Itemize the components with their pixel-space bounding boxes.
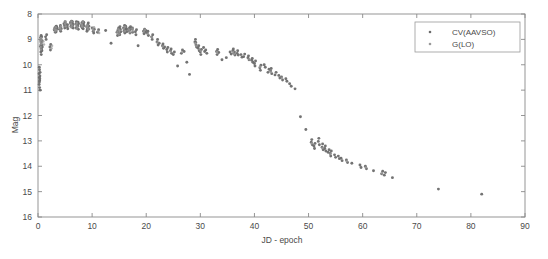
data-point xyxy=(310,142,313,145)
data-point xyxy=(124,25,127,28)
data-point xyxy=(39,71,42,74)
data-point xyxy=(38,81,41,84)
data-point xyxy=(161,45,164,48)
data-point xyxy=(151,33,154,36)
data-point xyxy=(216,51,219,54)
data-point xyxy=(144,28,147,31)
data-point xyxy=(123,30,126,33)
data-point xyxy=(480,193,483,196)
data-point xyxy=(110,42,113,45)
data-point xyxy=(290,85,293,88)
data-point xyxy=(194,42,197,45)
data-point xyxy=(129,31,132,34)
data-point xyxy=(333,153,336,156)
data-point xyxy=(38,74,41,77)
data-point xyxy=(197,44,200,47)
data-point xyxy=(233,53,236,56)
data-point xyxy=(170,50,173,53)
data-point xyxy=(360,166,363,169)
data-point xyxy=(93,26,96,29)
data-point xyxy=(38,66,41,69)
data-point xyxy=(59,28,62,31)
data-point xyxy=(321,147,324,150)
x-tick-label: 10 xyxy=(87,221,97,231)
data-point xyxy=(304,128,307,131)
data-point xyxy=(277,74,280,77)
data-point xyxy=(64,20,67,23)
data-point xyxy=(166,51,169,54)
data-point xyxy=(270,71,273,74)
data-point xyxy=(263,63,266,66)
data-point xyxy=(364,166,367,169)
data-point xyxy=(274,73,277,76)
data-point xyxy=(92,32,95,35)
x-tick-label: 60 xyxy=(358,221,368,231)
data-point xyxy=(199,50,202,53)
data-point xyxy=(247,54,250,57)
data-point xyxy=(254,59,257,62)
data-point xyxy=(221,58,224,61)
x-tick-label: 30 xyxy=(196,221,206,231)
data-point xyxy=(259,69,262,72)
data-point xyxy=(225,56,228,59)
data-point xyxy=(132,30,135,33)
data-point xyxy=(104,29,107,32)
data-point xyxy=(146,33,149,36)
data-point xyxy=(118,33,121,36)
data-point xyxy=(70,26,73,29)
data-point xyxy=(232,48,235,51)
data-point xyxy=(237,54,240,57)
data-point xyxy=(82,21,85,24)
y-tick-label: 13 xyxy=(23,136,33,146)
y-tick-label: 8 xyxy=(27,9,32,19)
data-point xyxy=(337,155,340,158)
legend-label-cv-aavso: CV(AAVSO) xyxy=(452,28,496,37)
legend: CV(AAVSO) G(LO) xyxy=(415,22,520,52)
y-tick-label: 10 xyxy=(23,60,33,70)
x-tick-label: 20 xyxy=(141,221,151,231)
data-point xyxy=(216,48,219,51)
data-point xyxy=(50,47,53,50)
data-point xyxy=(116,31,119,34)
data-point xyxy=(131,27,134,30)
data-point xyxy=(314,142,317,145)
data-point xyxy=(281,77,284,80)
data-point xyxy=(38,77,41,80)
data-point xyxy=(170,48,173,51)
data-point xyxy=(151,36,154,39)
legend-label-g-lo: G(LO) xyxy=(452,40,475,49)
data-point xyxy=(372,169,375,172)
data-point xyxy=(146,30,149,33)
y-tick-label: 12 xyxy=(23,111,33,121)
data-point xyxy=(275,71,278,74)
data-point xyxy=(38,83,41,86)
data-point xyxy=(45,33,48,36)
data-point xyxy=(172,53,175,56)
data-point xyxy=(284,77,287,80)
data-point xyxy=(321,142,324,145)
data-point xyxy=(299,115,302,118)
data-point xyxy=(359,164,362,167)
data-point xyxy=(334,156,337,159)
data-point xyxy=(317,140,320,143)
data-point xyxy=(383,174,386,177)
data-point xyxy=(381,172,384,175)
data-point xyxy=(341,159,344,162)
data-point xyxy=(248,58,251,61)
scatter-plot: 0102030405060708090 8910111213141516 JD … xyxy=(0,0,548,259)
data-point xyxy=(166,46,169,49)
data-point xyxy=(391,176,394,179)
y-tick-label: 14 xyxy=(23,161,33,171)
data-point xyxy=(128,28,131,31)
data-point xyxy=(75,27,78,30)
data-point xyxy=(55,26,58,29)
data-point xyxy=(199,53,202,56)
data-point xyxy=(135,28,138,31)
data-point xyxy=(384,171,387,174)
data-point xyxy=(137,44,140,47)
data-point xyxy=(317,137,320,140)
y-axis-title: Mag xyxy=(10,116,20,133)
data-point xyxy=(253,62,256,65)
y-tick-label: 9 xyxy=(27,34,32,44)
data-point xyxy=(43,43,46,46)
